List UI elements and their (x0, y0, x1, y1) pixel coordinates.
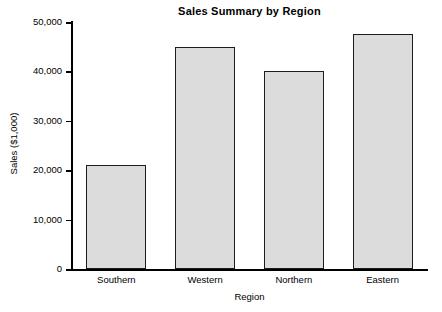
bar (353, 34, 413, 269)
y-tick-label: 40,000 (0, 65, 62, 76)
plot-area (72, 22, 427, 269)
bar-chart: Sales Summary by Region 010,00020,00030,… (0, 0, 442, 312)
y-axis-title: Sales ($1,000) (8, 94, 19, 194)
x-axis-title: Region (72, 291, 427, 302)
y-tick-label: 10,000 (0, 214, 62, 225)
x-axis-label-northern: Northern (250, 274, 339, 285)
x-axis-line (71, 269, 428, 271)
y-tick-mark (66, 269, 72, 271)
x-axis-label-western: Western (161, 274, 250, 285)
y-tick-label: 0 (0, 263, 62, 274)
bar (264, 71, 324, 269)
chart-title: Sales Summary by Region (72, 5, 427, 18)
x-axis-label-southern: Southern (72, 274, 161, 285)
bar (86, 165, 146, 269)
x-axis-label-eastern: Eastern (338, 274, 427, 285)
bar (175, 47, 235, 269)
y-tick-label: 50,000 (0, 16, 62, 27)
